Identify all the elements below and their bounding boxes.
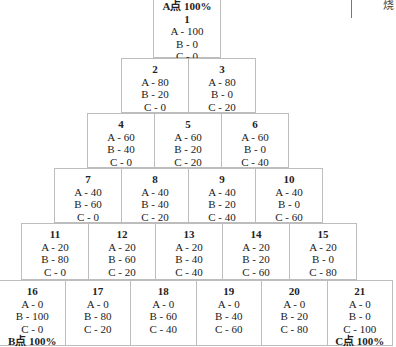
cell-a-value: A - 40 <box>122 186 188 199</box>
cell-b-value: B - 40 <box>88 143 154 156</box>
cell-c-value: C - 80 <box>290 266 356 279</box>
cell-a-value: A - 40 <box>256 186 322 199</box>
cell-c-value: C - 20 <box>155 156 221 169</box>
cell-c-value: C - 60 <box>223 266 289 279</box>
mix-cell-19: 19A - 0B - 40C - 60 <box>196 280 263 346</box>
cell-number: 9 <box>189 173 255 186</box>
cell-b-value: B - 60 <box>89 253 155 266</box>
cell-a-value: A - 0 <box>131 298 196 311</box>
cell-number: 14 <box>223 228 289 241</box>
cell-b-value: B - 20 <box>155 143 221 156</box>
cell-a-value: A - 60 <box>222 131 288 144</box>
cell-number: 7 <box>55 173 121 186</box>
mix-cell-18: 18A - 0B - 60C - 40 <box>130 280 197 346</box>
cell-c-value: C - 40 <box>156 266 222 279</box>
cell-a-value: A - 20 <box>156 241 222 254</box>
cell-number: 15 <box>290 228 356 241</box>
cell-number: 3 <box>189 63 255 76</box>
cell-c-value: C - 0 <box>0 323 65 336</box>
cell-c-value: C - 20 <box>66 323 131 336</box>
mix-cell-5: 5A - 60B - 20C - 20 <box>154 113 222 168</box>
mix-cell-20: 20A - 0B - 20C - 80 <box>261 280 328 346</box>
cell-b-value: B - 20 <box>122 88 188 101</box>
mix-cell-3: 3A - 80B - 0C - 20 <box>188 58 256 113</box>
cell-number: 8 <box>122 173 188 186</box>
cell-a-value: A - 40 <box>189 186 255 199</box>
cell-c-value: C - 20 <box>189 101 255 114</box>
cell-b-value: B - 60 <box>55 198 121 211</box>
side-label: 烧 <box>383 0 394 12</box>
cell-b-value: B - 40 <box>197 310 262 323</box>
cell-b-value: B - 40 <box>122 198 188 211</box>
cell-number: 20 <box>262 285 327 298</box>
mix-cell-17: 17A - 0B - 80C - 20 <box>65 280 132 346</box>
cell-number: 5 <box>155 118 221 131</box>
cell-a-value: A - 80 <box>122 76 188 89</box>
cell-number: 4 <box>88 118 154 131</box>
cell-number: 11 <box>22 228 88 241</box>
mix-cell-16: 16A - 0B - 100C - 0B点 100% <box>0 280 66 346</box>
cell-b-value: B - 80 <box>66 310 131 323</box>
cell-a-value: A - 60 <box>155 131 221 144</box>
cell-number: 17 <box>66 285 131 298</box>
cell-c-value: C - 60 <box>256 211 322 224</box>
cell-number: 2 <box>122 63 188 76</box>
cell-c-value: C - 0 <box>122 101 188 114</box>
cell-a-value: A - 20 <box>22 241 88 254</box>
cell-a-value: A - 20 <box>223 241 289 254</box>
cell-a-value: A - 0 <box>262 298 327 311</box>
cell-b-value: B - 100 <box>0 310 65 323</box>
mix-cell-8: 8A - 40B - 40C - 20 <box>121 168 189 223</box>
cell-a-value: A - 0 <box>197 298 262 311</box>
cell-c-value: C - 80 <box>262 323 327 336</box>
cell-b-value: B - 20 <box>189 198 255 211</box>
cell-a-value: A - 0 <box>328 298 393 311</box>
mix-cell-15: 15A - 20B - 0C - 80 <box>289 223 357 280</box>
cell-c-value: C - 40 <box>222 156 288 169</box>
cell-c-value: C - 40 <box>131 323 196 336</box>
cell-top-tag: A点 100% <box>154 0 220 13</box>
mix-cell-14: 14A - 20B - 20C - 60 <box>222 223 290 280</box>
cell-number: 12 <box>89 228 155 241</box>
cell-b-value: B - 0 <box>290 253 356 266</box>
cell-c-value: C - 60 <box>197 323 262 336</box>
mix-cell-13: 13A - 20B - 40C - 40 <box>155 223 223 280</box>
mix-cell-11: 11A - 20B - 80C - 0 <box>21 223 89 280</box>
cell-b-value: B - 0 <box>222 143 288 156</box>
cell-b-value: B - 20 <box>223 253 289 266</box>
cell-c-value: C - 100 <box>328 323 393 336</box>
cell-number: 1 <box>154 13 220 26</box>
cell-b-value: B - 0 <box>328 310 393 323</box>
mix-cell-9: 9A - 40B - 20C - 40 <box>188 168 256 223</box>
cell-number: 13 <box>156 228 222 241</box>
cell-b-value: B - 0 <box>189 88 255 101</box>
mix-cell-7: 7A - 40B - 60C - 0 <box>54 168 122 223</box>
mix-cell-10: 10A - 40B - 0C - 60 <box>255 168 323 223</box>
cell-c-value: C - 0 <box>55 211 121 224</box>
cell-number: 21 <box>328 285 393 298</box>
side-divider <box>351 0 352 18</box>
cell-c-value: C - 0 <box>22 266 88 279</box>
cell-a-value: A - 0 <box>0 298 65 311</box>
mix-cell-21: 21A - 0B - 0C - 100C点 100% <box>327 280 394 346</box>
cell-a-value: A - 20 <box>89 241 155 254</box>
cell-a-value: A - 100 <box>154 25 220 38</box>
cell-number: 18 <box>131 285 196 298</box>
cell-a-value: A - 80 <box>189 76 255 89</box>
cell-bottom-tag: B点 100% <box>0 335 65 347</box>
cell-c-value: C - 40 <box>189 211 255 224</box>
cell-c-value: C - 20 <box>122 211 188 224</box>
cell-number: 10 <box>256 173 322 186</box>
cell-a-value: A - 0 <box>66 298 131 311</box>
cell-number: 19 <box>197 285 262 298</box>
cell-b-value: B - 0 <box>154 38 220 51</box>
cell-bottom-tag: C点 100% <box>328 335 393 347</box>
cell-b-value: B - 40 <box>156 253 222 266</box>
cell-a-value: A - 60 <box>88 131 154 144</box>
mix-cell-2: 2A - 80B - 20C - 0 <box>121 58 189 113</box>
cell-b-value: B - 80 <box>22 253 88 266</box>
cell-number: 6 <box>222 118 288 131</box>
cell-b-value: B - 20 <box>262 310 327 323</box>
mix-cell-6: 6A - 60B - 0C - 40 <box>221 113 289 168</box>
cell-a-value: A - 40 <box>55 186 121 199</box>
